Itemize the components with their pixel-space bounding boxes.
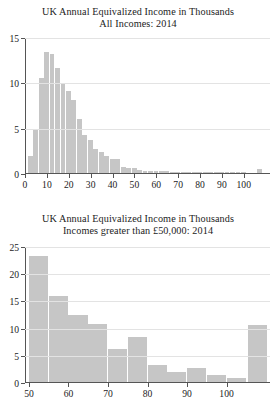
histogram-bar — [44, 52, 49, 173]
x-tick-label: 90 — [182, 388, 192, 399]
histogram-bar — [128, 337, 147, 382]
y-tick-mark — [21, 247, 25, 248]
histogram-bar — [164, 171, 169, 173]
histogram-bar — [88, 324, 107, 382]
x-tick-mark — [68, 383, 69, 387]
histogram-bar — [187, 368, 206, 382]
histogram-bar — [121, 167, 126, 173]
histogram-bar — [181, 172, 186, 173]
histogram-bar — [143, 171, 148, 173]
histogram-bar — [50, 54, 55, 173]
x-tick-mark — [156, 174, 157, 178]
x-tick-label: 60 — [64, 388, 74, 399]
histogram-bar — [175, 172, 180, 173]
histogram-bar — [170, 172, 175, 173]
histogram-bar — [66, 91, 71, 173]
histogram-bar — [39, 78, 44, 173]
histogram-bar — [148, 171, 153, 173]
gridline-y — [25, 356, 270, 357]
x-tick-label: 60 — [151, 179, 161, 190]
histogram-bar — [28, 156, 33, 173]
x-tick-mark — [25, 174, 26, 178]
histogram-bar — [257, 169, 262, 173]
gridline-y — [25, 301, 270, 302]
histogram-bar — [207, 375, 226, 382]
histogram-bar — [225, 172, 230, 173]
histogram-bar — [203, 172, 208, 173]
x-tick-label: 70 — [173, 179, 183, 190]
x-tick-mark — [148, 383, 149, 387]
x-tick-mark — [91, 174, 92, 178]
x-tick-label: 100 — [237, 179, 251, 190]
x-tick-label: 70 — [103, 388, 113, 399]
y-tick-label: 5 — [14, 123, 19, 134]
y-tick-mark — [21, 129, 25, 130]
histogram-bar — [29, 256, 48, 382]
histogram-bar — [110, 159, 115, 174]
y-tick-label: 0 — [14, 169, 19, 180]
x-tick-mark — [222, 174, 223, 178]
x-tick-label: 50 — [130, 179, 140, 190]
histogram-bar — [208, 172, 213, 173]
histogram-bar — [93, 149, 98, 173]
histogram-bar — [236, 172, 241, 173]
x-tick-label: 40 — [108, 179, 118, 190]
figure-all-incomes: UK Annual Equivalized Income in Thousand… — [0, 0, 276, 207]
x-tick-label: 100 — [219, 388, 233, 399]
histogram-bar — [214, 172, 219, 173]
y-tick-mark — [21, 83, 25, 84]
y-tick-label: 25 — [9, 242, 19, 253]
histogram-bar — [132, 168, 137, 173]
histogram-bar — [186, 172, 191, 173]
y-tick-label: 10 — [9, 78, 19, 89]
x-tick-label: 0 — [23, 179, 28, 190]
y-tick-label: 5 — [14, 350, 19, 361]
histogram-bar — [88, 140, 93, 173]
y-tick-mark — [21, 383, 25, 384]
histogram-bar — [49, 296, 68, 382]
histogram-bar — [154, 171, 159, 173]
y-tick-label: 10 — [9, 323, 19, 334]
y-tick-label: 15 — [9, 296, 19, 307]
gridline-y — [25, 38, 270, 39]
histogram-bar — [104, 156, 109, 173]
gridline-y — [25, 274, 270, 275]
x-tick-mark — [178, 174, 179, 178]
bars-layer-1 — [25, 38, 270, 174]
x-tick-mark — [187, 383, 188, 387]
histogram-bar — [71, 100, 76, 173]
y-tick-mark — [21, 329, 25, 330]
bars-layer-2 — [25, 247, 270, 383]
x-tick-label: 90 — [217, 179, 227, 190]
x-tick-mark — [227, 383, 228, 387]
gridline-y — [25, 83, 270, 84]
x-tick-mark — [134, 174, 135, 178]
x-tick-mark — [244, 174, 245, 178]
histogram-bar — [115, 159, 120, 173]
histogram-bar — [241, 172, 246, 173]
gridline-y — [25, 329, 270, 330]
x-tick-mark — [47, 174, 48, 178]
histogram-bar — [137, 170, 142, 173]
histogram-bar — [33, 130, 38, 173]
plot-wrap-2: 05101520255060708090100 — [0, 207, 276, 414]
histogram-bar — [126, 168, 131, 173]
y-tick-mark — [21, 356, 25, 357]
y-tick-mark — [21, 38, 25, 39]
y-tick-mark — [21, 301, 25, 302]
x-tick-label: 30 — [86, 179, 96, 190]
y-tick-mark — [21, 274, 25, 275]
figure-incomes-above-50k: UK Annual Equivalized Income in Thousand… — [0, 207, 276, 414]
histogram-bar — [77, 119, 82, 173]
histogram-bar — [197, 172, 202, 173]
y-tick-label: 0 — [14, 378, 19, 389]
x-tick-mark — [108, 383, 109, 387]
y-tick-label: 20 — [9, 269, 19, 280]
histogram-bar — [230, 172, 235, 173]
x-tick-mark — [200, 174, 201, 178]
y-tick-label: 15 — [9, 33, 19, 44]
histogram-bar — [108, 349, 127, 382]
x-tick-label: 10 — [42, 179, 52, 190]
histogram-bar — [148, 365, 167, 382]
histogram-bar — [82, 135, 87, 173]
